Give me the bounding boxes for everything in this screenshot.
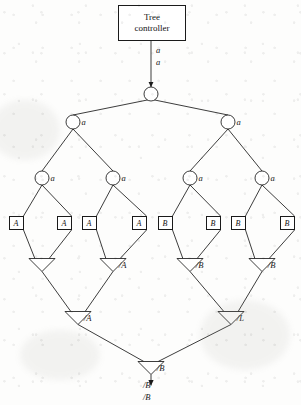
- leaf-node-leaf-8[interactable]: B: [280, 216, 295, 230]
- output-label-lower: /B: [143, 393, 151, 402]
- controller-title-line1: Tree: [144, 12, 160, 23]
- tree-diagram-svg: [0, 0, 301, 405]
- tree-nodes: [29, 87, 275, 375]
- root-edge-label-upper: a: [156, 46, 160, 55]
- cropped-caption-text: [4, 400, 6, 405]
- tree-node-circle-L2-2[interactable]: [221, 115, 235, 129]
- node-label-L2-1: a: [82, 118, 86, 127]
- node-label-tri-6: /L: [237, 314, 244, 323]
- node-label-tri-3: /B: [196, 261, 204, 270]
- node-label-L3-1: a: [51, 174, 55, 183]
- tree-node-circle-L3-1[interactable]: [35, 171, 49, 185]
- node-label-tri-5: /A: [84, 314, 92, 323]
- leaf-node-leaf-1[interactable]: A: [9, 216, 24, 230]
- root-edge-label-lower: a: [156, 58, 160, 67]
- controller-title-line2: controller: [135, 23, 170, 34]
- tree-node-circle-L2-1[interactable]: [66, 115, 80, 129]
- leaf-node-leaf-2[interactable]: A: [57, 216, 72, 230]
- node-label-L2-2: a: [237, 118, 241, 127]
- tree-node-circle-root[interactable]: [144, 87, 158, 101]
- node-label-tri-2: /A: [119, 261, 127, 270]
- leaf-node-leaf-3[interactable]: A: [82, 216, 97, 230]
- diagram-canvas: Tree controller a a /B /B aaaaaa/A/B/B/A…: [0, 0, 301, 405]
- tree-node-triangle-tri-1[interactable]: [29, 259, 55, 272]
- tree-node-circle-L3-2[interactable]: [106, 171, 120, 185]
- tree-controller-box[interactable]: Tree controller: [118, 5, 186, 41]
- node-label-tri-7: /B: [157, 364, 165, 373]
- leaf-node-leaf-4[interactable]: A: [132, 216, 147, 230]
- leaf-node-leaf-7[interactable]: B: [231, 216, 246, 230]
- node-label-L3-2: a: [122, 174, 126, 183]
- node-label-L3-4: a: [271, 174, 275, 183]
- node-label-L3-3: a: [199, 174, 203, 183]
- leaf-node-leaf-5[interactable]: B: [158, 216, 173, 230]
- leaf-node-leaf-6[interactable]: B: [206, 216, 221, 230]
- tree-edges: [24, 41, 295, 386]
- tree-node-circle-L3-3[interactable]: [183, 171, 197, 185]
- output-label-upper: /B: [143, 381, 151, 390]
- tree-node-circle-L3-4[interactable]: [255, 171, 269, 185]
- node-label-tri-4: /B: [268, 261, 276, 270]
